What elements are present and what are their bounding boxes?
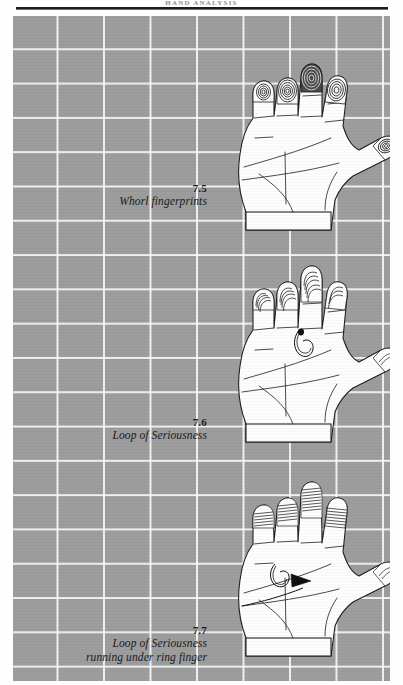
loop-print-ring-2 xyxy=(277,498,298,526)
loop-print-ring xyxy=(277,282,298,311)
figure-7-7-caption-line-1: Loop of Seriousness xyxy=(20,636,207,650)
figure-7-7-caption: 7.7 Loop of Seriousness running under ri… xyxy=(20,624,207,664)
loop-print-little-2 xyxy=(253,505,274,528)
whorl-ring xyxy=(277,78,298,104)
loop-print-index xyxy=(325,282,347,310)
figure-7-5-illustration xyxy=(213,34,390,234)
loop-print-index-2 xyxy=(325,498,347,528)
loop-print-little xyxy=(253,289,274,312)
loop-print-middle-2 xyxy=(301,482,322,518)
figure-7-6-caption: 7.6 Loop of Seriousness xyxy=(20,416,207,442)
loop-print-middle xyxy=(301,266,322,302)
figure-7-7-caption-line-2: running under ring finger xyxy=(20,650,207,664)
figure-7-6-caption-line-1: Loop of Seriousness xyxy=(20,428,207,442)
figure-7-7-number: 7.7 xyxy=(20,624,207,636)
book-page: HAND ANALYSIS xyxy=(0,0,403,685)
figure-7-6-illustration xyxy=(213,246,390,446)
figure-7-5-caption: 7.5 Whorl fingerprints xyxy=(20,182,207,208)
whorl-index xyxy=(325,76,347,104)
whorl-middle xyxy=(301,64,322,92)
grid-illustration-panel xyxy=(13,16,390,681)
figure-7-5-number: 7.5 xyxy=(20,182,207,194)
running-head: HAND ANALYSIS xyxy=(0,0,403,7)
header-rule xyxy=(16,7,388,9)
figure-7-6-number: 7.6 xyxy=(20,416,207,428)
figure-7-7-illustration xyxy=(213,456,390,661)
figure-7-5-caption-line-1: Whorl fingerprints xyxy=(20,194,207,208)
whorl-little xyxy=(253,81,274,102)
